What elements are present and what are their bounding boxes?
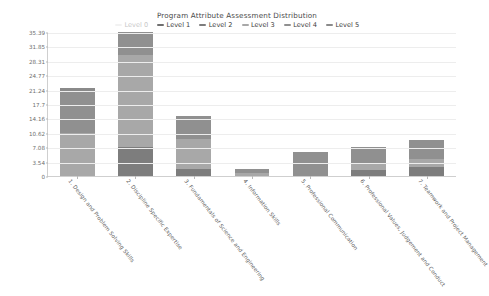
gridline	[48, 47, 456, 48]
legend-swatch-icon	[284, 24, 291, 26]
gridline	[48, 148, 456, 149]
bar-segment-level-4[interactable]	[60, 92, 95, 132]
x-axis-label: 5. Professional Communication	[301, 178, 360, 251]
legend-swatch-icon	[115, 24, 122, 26]
gridline	[48, 91, 456, 92]
x-axis-labels: 1. Design and Problem Solving Skills2. D…	[47, 178, 456, 290]
y-axis-tick-label: 7.08	[33, 145, 48, 151]
stacked-bar[interactable]	[235, 169, 270, 176]
legend-item-label: Level 3	[251, 21, 275, 29]
stacked-bar[interactable]	[351, 147, 386, 176]
legend-item-label: Level 2	[209, 21, 233, 29]
gridline	[48, 105, 456, 106]
bar-segment-level-2[interactable]	[176, 169, 211, 176]
legend-item-level-2[interactable]: Level 2	[199, 21, 232, 29]
chart-title: Program Attribute Assessment Distributio…	[0, 11, 474, 20]
gridline	[48, 62, 456, 63]
legend-item-level-1[interactable]: Level 1	[157, 21, 190, 29]
x-axis-label: 7. Teamwork and Project Management	[417, 178, 489, 268]
gridline	[48, 134, 456, 135]
y-axis-tick-label: 31.85	[29, 44, 48, 50]
y-axis-tick-label: 14.16	[29, 116, 48, 122]
stacked-bar[interactable]	[409, 140, 444, 176]
x-axis-label: 2. Discipline Specific Expertise	[125, 178, 184, 251]
y-axis-tick-label: 3.54	[33, 160, 48, 166]
legend-item-level-3[interactable]: Level 3	[242, 21, 275, 29]
y-axis-tick-label: 28.31	[29, 59, 48, 65]
gridline	[48, 33, 456, 34]
legend-item-label: Level 5	[335, 21, 359, 29]
gridline	[48, 76, 456, 77]
gridline	[48, 163, 456, 164]
legend-item-label: Level 1	[167, 21, 191, 29]
bar-segment-level-2[interactable]	[118, 147, 153, 176]
gridline	[48, 119, 456, 120]
bar-segment-level-3[interactable]	[60, 133, 95, 176]
legend-item-level-0[interactable]: Level 0	[115, 21, 148, 29]
legend-item-level-4[interactable]: Level 4	[284, 21, 317, 29]
x-axis-label: 4. Information Skills	[242, 178, 282, 226]
bar-segment-level-4[interactable]	[293, 152, 328, 176]
y-axis-tick-label: 10.62	[29, 131, 48, 137]
legend-item-level-5[interactable]: Level 5	[326, 21, 359, 29]
legend-swatch-icon	[157, 24, 164, 26]
x-axis-label: 1. Design and Problem Solving Skills	[67, 178, 136, 263]
y-axis-tick-label: 17.7	[33, 102, 48, 108]
chart-legend: Level 0Level 1Level 2Level 3Level 4Level…	[0, 21, 474, 29]
bar-segment-level-4[interactable]	[118, 32, 153, 55]
legend-item-label: Level 0	[124, 21, 148, 29]
bar-segment-level-3[interactable]	[176, 139, 211, 169]
bar-segment-level-4[interactable]	[409, 140, 444, 159]
legend-item-label: Level 4	[293, 21, 317, 29]
y-axis-tick-label: 21.24	[29, 88, 48, 94]
stacked-bar[interactable]	[293, 152, 328, 176]
legend-swatch-icon	[242, 24, 249, 26]
stacked-bar[interactable]	[176, 116, 211, 176]
y-axis-tick-label: 35.39	[29, 30, 48, 36]
bar-segment-level-2[interactable]	[409, 167, 444, 176]
legend-swatch-icon	[199, 24, 206, 26]
plot-area: 35.3931.8528.3124.7721.2417.714.1610.627…	[47, 33, 456, 177]
y-axis-tick-label: 24.77	[29, 73, 48, 79]
legend-swatch-icon	[326, 24, 333, 26]
